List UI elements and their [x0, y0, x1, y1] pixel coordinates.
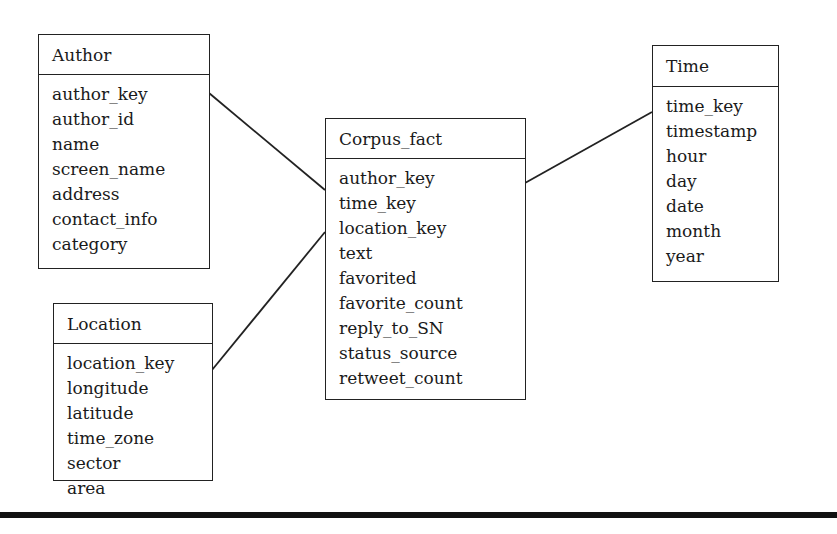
field-time-key: time_key	[666, 94, 778, 119]
field-author-key: author_key	[339, 166, 525, 191]
field-area: area	[67, 476, 212, 501]
field-latitude: latitude	[67, 401, 212, 426]
field-date: date	[666, 194, 778, 219]
field-longitude: longitude	[67, 376, 212, 401]
field-contact-info: contact_info	[52, 207, 209, 232]
entity-time-fields: time_key timestamp hour day date month y…	[653, 87, 778, 269]
field-day: day	[666, 169, 778, 194]
field-location-key: location_key	[67, 351, 212, 376]
entity-author: Author author_key author_id name screen_…	[38, 34, 210, 269]
entity-corpus-fact-title: Corpus_fact	[326, 119, 525, 159]
entity-corpus-fact: Corpus_fact author_key time_key location…	[325, 118, 526, 400]
entity-location-fields: location_key longitude latitude time_zon…	[54, 344, 212, 501]
entity-location: Location location_key longitude latitude…	[53, 303, 213, 481]
field-year: year	[666, 244, 778, 269]
field-reply-to-sn: reply_to_SN	[339, 316, 525, 341]
field-text: text	[339, 241, 525, 266]
connector-author-corpus-fact	[209, 93, 325, 190]
bottom-divider-rule	[0, 512, 837, 518]
field-name: name	[52, 132, 209, 157]
field-favorite-count: favorite_count	[339, 291, 525, 316]
connector-corpus-fact-time	[525, 112, 652, 183]
entity-time: Time time_key timestamp hour day date mo…	[652, 45, 779, 282]
entity-time-title: Time	[653, 46, 778, 87]
field-screen-name: screen_name	[52, 157, 209, 182]
field-timestamp: timestamp	[666, 119, 778, 144]
field-status-source: status_source	[339, 341, 525, 366]
entity-location-title: Location	[54, 304, 212, 344]
entity-corpus-fact-fields: author_key time_key location_key text fa…	[326, 159, 525, 391]
field-address: address	[52, 182, 209, 207]
field-category: category	[52, 232, 209, 257]
field-author-id: author_id	[52, 107, 209, 132]
field-time-zone: time_zone	[67, 426, 212, 451]
field-month: month	[666, 219, 778, 244]
field-favorited: favorited	[339, 266, 525, 291]
entity-author-fields: author_key author_id name screen_name ad…	[39, 75, 209, 257]
field-location-key: location_key	[339, 216, 525, 241]
field-author-key: author_key	[52, 82, 209, 107]
connector-location-corpus-fact	[212, 232, 325, 370]
field-retweet-count: retweet_count	[339, 366, 525, 391]
field-hour: hour	[666, 144, 778, 169]
field-time-key: time_key	[339, 191, 525, 216]
field-sector: sector	[67, 451, 212, 476]
entity-author-title: Author	[39, 35, 209, 75]
